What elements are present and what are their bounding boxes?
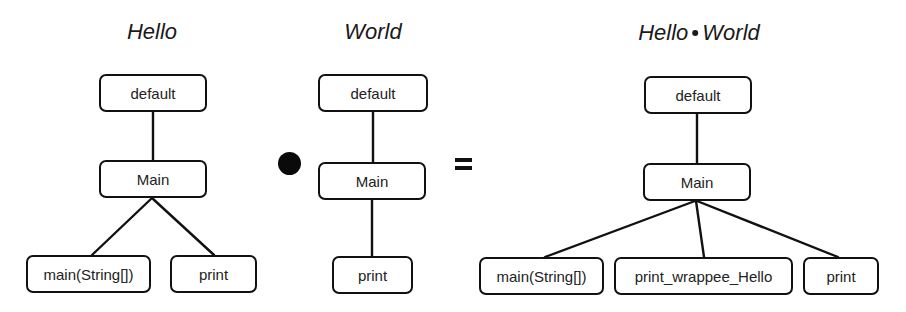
result-title-right: World (702, 20, 759, 45)
result-node-print: print (803, 257, 879, 295)
node-label: default (350, 85, 395, 102)
result-node-main-method: main(String[]) (479, 257, 604, 295)
feature-composition-diagram: Hello default Main main(String[]) print … (0, 0, 906, 312)
node-label: print (358, 267, 387, 284)
result-title-left: Hello (638, 20, 688, 45)
node-label: default (130, 85, 175, 102)
node-label: print_wrappee_Hello (635, 268, 773, 285)
node-label: Main (681, 174, 714, 191)
edge-result-main-print (697, 201, 838, 257)
world-node-main: Main (318, 162, 426, 200)
node-label: Main (137, 171, 170, 188)
node-label: default (675, 87, 720, 104)
edge-result-main-wrappee (696, 201, 704, 257)
result-node-default: default (644, 76, 752, 114)
composition-operator-dot-icon (278, 152, 301, 175)
node-label: main(String[]) (43, 266, 133, 283)
world-node-default: default (318, 74, 428, 112)
edge-hello-main-print (152, 198, 214, 255)
hello-node-main-method: main(String[]) (26, 255, 151, 293)
hello-node-default: default (99, 74, 207, 112)
node-label: Main (356, 173, 389, 190)
edge-result-main-mainmethod (545, 201, 695, 257)
world-node-print: print (332, 256, 413, 294)
node-label: main(String[]) (496, 268, 586, 285)
node-label: print (826, 268, 855, 285)
hello-node-main: Main (99, 160, 207, 198)
hello-node-print: print (170, 255, 257, 293)
hello-tree-title: Hello (127, 19, 177, 45)
composition-operator-small-dot-icon (692, 30, 698, 36)
result-tree-title: HelloWorld (638, 20, 760, 46)
edge-hello-main-mainmethod (92, 198, 152, 255)
result-node-main: Main (643, 163, 751, 201)
world-tree-title: World (344, 19, 401, 45)
result-node-print-wrappee-hello: print_wrappee_Hello (614, 257, 793, 295)
equals-sign-icon (455, 158, 472, 170)
node-label: print (199, 266, 228, 283)
